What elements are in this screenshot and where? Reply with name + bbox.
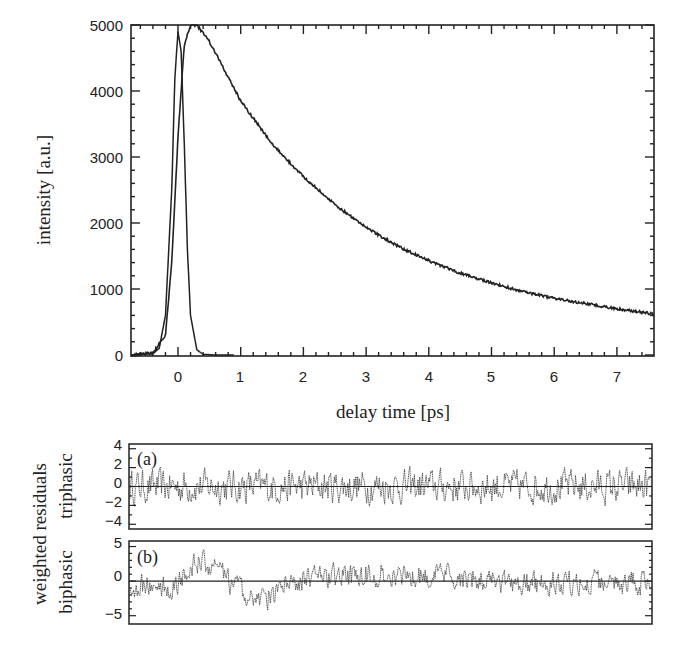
y-tick-label: 0 xyxy=(115,347,123,364)
y-tick-label: 4000 xyxy=(90,83,123,100)
residuals-axis-title: weighted residuals xyxy=(29,463,50,605)
main-curves xyxy=(131,25,654,356)
x-tick-label: 4 xyxy=(425,368,433,385)
res-b-y-tick: 0 xyxy=(114,567,122,584)
main-plot-frame xyxy=(131,25,654,356)
panel-b-tag: (b) xyxy=(137,547,158,568)
residuals-panel-a: (a) 4 2 0 −2 −4 triphasic xyxy=(55,436,652,529)
x-tick-label: 7 xyxy=(613,368,621,385)
y-tick-label: 3000 xyxy=(90,149,123,166)
main-axis-ticks xyxy=(131,25,654,356)
panel-a-label: triphasic xyxy=(55,453,76,518)
x-tick-label: 6 xyxy=(550,368,558,385)
x-tick-label: 5 xyxy=(487,368,495,385)
y-axis-title: intensity [a.u.] xyxy=(33,135,54,245)
residuals-panel-b: (b) 5 0 −5 biphasic xyxy=(55,534,652,624)
panel-a-tag: (a) xyxy=(137,449,157,470)
res-a-y-tick: 4 xyxy=(114,436,122,453)
x-tick-label: 3 xyxy=(362,368,370,385)
x-tick-label: 1 xyxy=(236,368,244,385)
residuals-b-trace xyxy=(129,547,652,616)
residuals-a-trace xyxy=(129,449,652,525)
res-a-y-tick: −2 xyxy=(105,493,122,510)
panel-b-label: biphasic xyxy=(55,550,76,613)
x-tick-label: 0 xyxy=(174,368,182,385)
y-tick-label: 1000 xyxy=(90,281,123,298)
y-tick-label: 5000 xyxy=(90,17,123,34)
res-a-y-tick: 2 xyxy=(114,455,122,472)
res-a-y-tick: −4 xyxy=(105,512,122,529)
x-tick-label: 2 xyxy=(299,368,307,385)
x-axis-title: delay time [ps] xyxy=(336,401,450,422)
res-b-y-tick: 5 xyxy=(114,534,122,551)
figure: 0 1000 2000 3000 4000 5000 0 1 2 3 4 5 6… xyxy=(0,0,679,652)
y-tick-label: 2000 xyxy=(90,215,123,232)
res-b-y-tick: −5 xyxy=(105,605,122,622)
res-a-y-tick: 0 xyxy=(114,474,122,491)
main-plot: 0 1000 2000 3000 4000 5000 0 1 2 3 4 5 6… xyxy=(33,17,654,422)
